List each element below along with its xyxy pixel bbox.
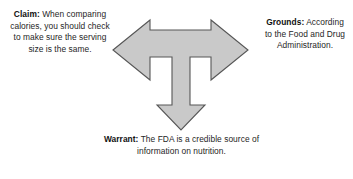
grounds-label: Grounds: <box>266 17 304 27</box>
claim-label: Claim: <box>14 9 40 19</box>
warrant-body: The FDA is a credible source of informat… <box>137 134 259 156</box>
warrant-label: Warrant: <box>104 134 139 144</box>
toulmin-argument-diagram: Claim: When comparing calories, you shou… <box>0 0 353 179</box>
warrant-text-block: Warrant: The FDA is a credible source of… <box>99 134 264 157</box>
t-shaped-arrow-shape <box>113 20 248 130</box>
claim-text-block: Claim: When comparing calories, you shou… <box>8 9 112 55</box>
grounds-text-block: Grounds: According to the Food and Drug … <box>262 17 348 52</box>
